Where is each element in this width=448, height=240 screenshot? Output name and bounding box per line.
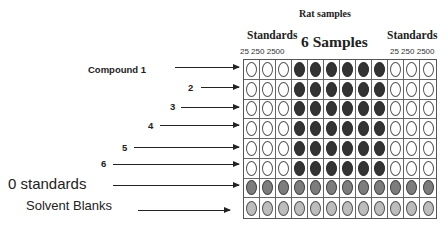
well-empty: [423, 82, 434, 97]
plate-cell: [404, 100, 420, 120]
samples-heading: 6 Samples: [301, 33, 368, 51]
plate-cell: [340, 100, 356, 120]
well-empty: [390, 82, 401, 97]
well-sample: [374, 121, 385, 136]
plate-cell: [356, 100, 372, 120]
well-sample: [374, 101, 385, 116]
row-label: 3: [170, 101, 175, 112]
plate-cell: [244, 179, 260, 199]
well-sample: [326, 101, 337, 116]
plate-cell: [356, 198, 372, 218]
plate-cell: [404, 198, 420, 218]
plate-cell: [356, 139, 372, 159]
well-sample: [342, 121, 353, 136]
plate-cell: [276, 159, 292, 179]
well-sample: [374, 62, 385, 77]
plate-cell: [244, 119, 260, 139]
plate-cell: [404, 80, 420, 100]
plate-cell: [388, 159, 404, 179]
well-empty: [278, 141, 289, 156]
plate-cell: [260, 80, 276, 100]
well-sample: [358, 161, 369, 176]
plate-cell: [340, 139, 356, 159]
plate-cell: [420, 139, 436, 159]
well-sample: [326, 82, 337, 97]
plate-cell: [260, 139, 276, 159]
plate-cell: [292, 179, 308, 199]
well-empty: [423, 161, 434, 176]
plate-cell: [388, 80, 404, 100]
well-sample: [342, 62, 353, 77]
well-sample: [326, 141, 337, 156]
well-sample: [310, 161, 321, 176]
well-blank: [310, 201, 321, 216]
plate-cell: [340, 80, 356, 100]
well-empty: [262, 62, 273, 77]
well-empty: [390, 121, 401, 136]
plate-cell: [372, 119, 388, 139]
plate-cell: [372, 198, 388, 218]
plate-cell: [308, 80, 324, 100]
plate-cell: [404, 119, 420, 139]
plate-cell: [244, 60, 260, 80]
well-empty: [278, 101, 289, 116]
arrow-icon: [175, 67, 239, 68]
well-zero: [342, 180, 353, 195]
plate-cell: [420, 60, 436, 80]
well-zero: [246, 180, 257, 195]
well-empty: [406, 121, 417, 136]
plate-cell: [340, 179, 356, 199]
well-empty: [423, 101, 434, 116]
plate-cell: [388, 179, 404, 199]
plate-cell: [324, 100, 340, 120]
well-sample: [342, 101, 353, 116]
well-sample: [358, 141, 369, 156]
plate-cell: [276, 80, 292, 100]
plate-cell: [292, 198, 308, 218]
row-label: 4: [148, 120, 153, 131]
well-sample: [310, 141, 321, 156]
plate-cell: [404, 60, 420, 80]
well-zero: [310, 180, 321, 195]
well-sample: [358, 82, 369, 97]
plate-cell: [420, 80, 436, 100]
plate-cell: [308, 119, 324, 139]
well-empty: [246, 121, 257, 136]
well-sample: [294, 141, 305, 156]
well-zero: [326, 180, 337, 195]
well-sample: [326, 121, 337, 136]
well-sample: [358, 62, 369, 77]
plate-cell: [276, 139, 292, 159]
well-zero: [262, 180, 273, 195]
plate-cell: [372, 60, 388, 80]
well-blank: [374, 201, 385, 216]
arrow-icon: [201, 87, 239, 88]
well-empty: [246, 161, 257, 176]
well-blank: [278, 201, 289, 216]
plate-cell: [324, 159, 340, 179]
plate-cell: [260, 198, 276, 218]
plate-cell: [260, 60, 276, 80]
plate-cell: [244, 80, 260, 100]
well-sample: [342, 141, 353, 156]
well-empty: [390, 62, 401, 77]
well-blank: [262, 201, 273, 216]
arrow-icon: [138, 210, 230, 211]
well-blank: [390, 201, 401, 216]
plate-cell: [372, 159, 388, 179]
plate-cell: [260, 159, 276, 179]
plate-cell: [324, 179, 340, 199]
row-label: 6: [101, 158, 106, 169]
well-blank: [342, 201, 353, 216]
well-sample: [294, 62, 305, 77]
well-blank: [423, 201, 434, 216]
well-sample: [358, 101, 369, 116]
well-sample: [342, 161, 353, 176]
plate-cell: [276, 179, 292, 199]
arrow-icon: [181, 107, 239, 108]
well-sample: [342, 82, 353, 97]
row-label: Compound 1: [88, 64, 146, 75]
well-empty: [406, 82, 417, 97]
plate-cell: [324, 119, 340, 139]
well-sample: [294, 161, 305, 176]
